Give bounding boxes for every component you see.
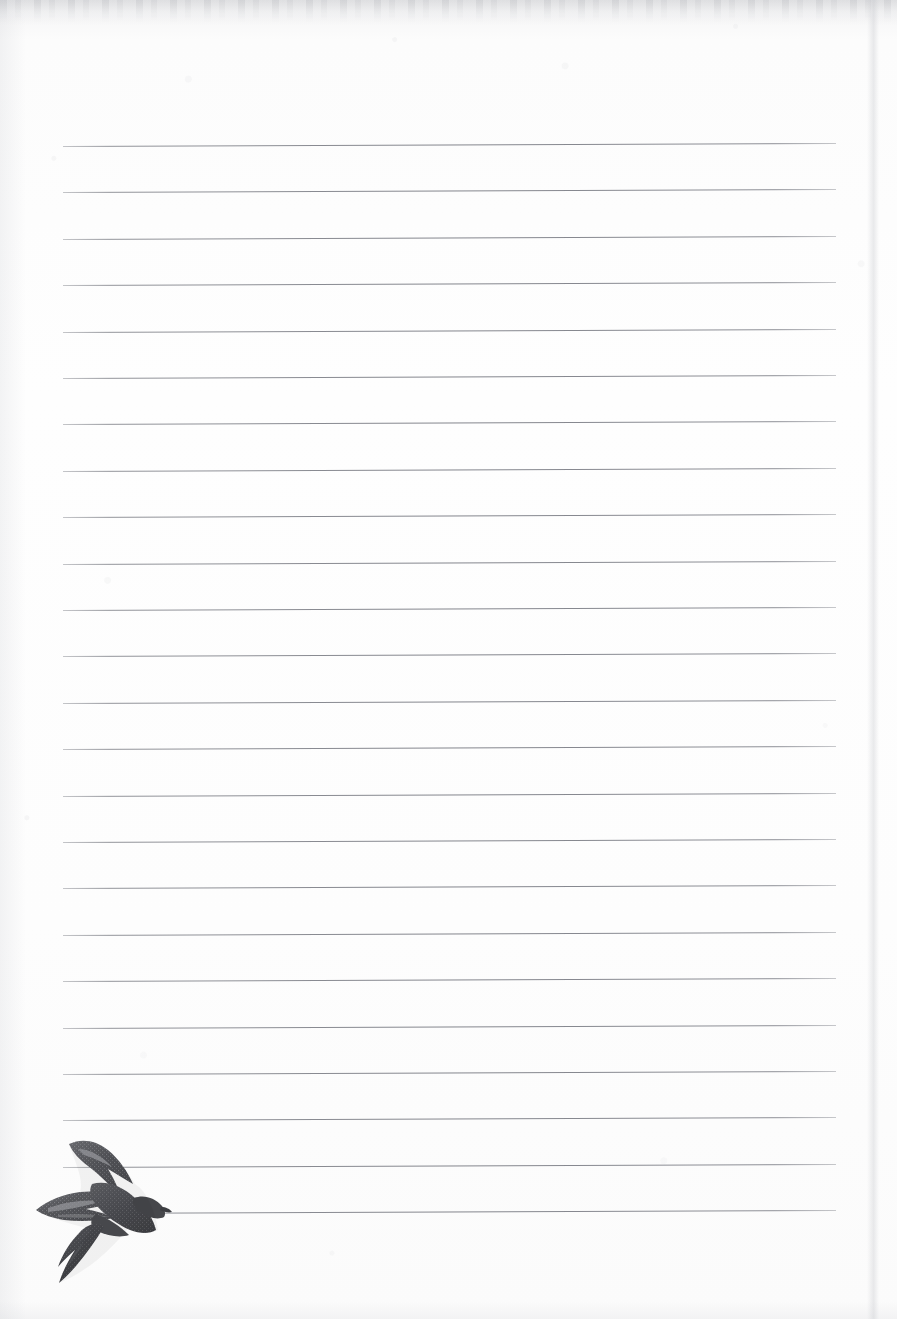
notebook-page — [0, 0, 897, 1319]
ruled-line — [63, 885, 836, 889]
ruled-line — [63, 839, 836, 843]
ruled-line — [63, 932, 836, 936]
swift-bird-illustration — [22, 1122, 172, 1297]
ruled-line — [63, 143, 836, 147]
ruled-line — [63, 236, 836, 240]
ruled-line — [63, 468, 836, 472]
ruled-line — [63, 1071, 836, 1075]
ruled-line — [63, 514, 836, 518]
ruled-line — [63, 1210, 836, 1214]
ruled-line — [63, 1164, 836, 1168]
ruled-line — [63, 793, 836, 797]
ruled-line — [63, 1117, 836, 1121]
ruled-line — [63, 1025, 836, 1029]
ruled-line — [63, 421, 836, 425]
ruled-line — [63, 329, 836, 333]
ruled-line — [63, 978, 836, 982]
ruled-line — [63, 375, 836, 379]
ruled-line — [63, 746, 836, 750]
ruled-line — [63, 607, 836, 611]
ruled-line — [63, 700, 836, 704]
ruled-line — [63, 282, 836, 286]
ruled-line — [63, 189, 836, 193]
ruled-line — [63, 561, 836, 565]
ruled-line — [63, 653, 836, 657]
